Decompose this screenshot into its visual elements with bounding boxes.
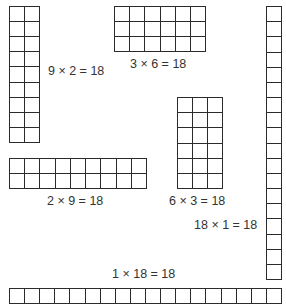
grid-cell xyxy=(145,22,160,37)
grid-cell xyxy=(161,289,176,304)
grid-cell xyxy=(178,113,193,128)
grid-cell xyxy=(176,37,191,52)
grid-cell xyxy=(161,37,176,52)
grid-cell xyxy=(10,83,25,98)
grid-cell xyxy=(115,22,130,37)
grid-cell xyxy=(222,289,237,304)
grid-cell xyxy=(193,98,208,113)
grid-cell xyxy=(55,289,70,304)
grid-cell xyxy=(176,289,191,304)
array-3x6-grid xyxy=(114,6,206,52)
grid-cell xyxy=(56,174,71,189)
grid-cell xyxy=(178,128,193,143)
grid-cell xyxy=(267,128,282,143)
array-1x18-label: 1 × 18 = 18 xyxy=(112,267,175,281)
grid-cell xyxy=(267,53,282,68)
grid-cell xyxy=(25,289,40,304)
array-18x1-grid xyxy=(266,6,282,280)
grid-cell xyxy=(10,159,25,174)
grid-cell xyxy=(25,98,40,113)
grid-cell xyxy=(267,159,282,174)
grid-cell xyxy=(10,128,25,143)
grid-cell xyxy=(178,144,193,159)
grid-cell xyxy=(115,37,130,52)
array-6x3-grid xyxy=(177,97,223,189)
grid-cell xyxy=(252,289,267,304)
grid-cell xyxy=(161,7,176,22)
grid-cell xyxy=(25,174,40,189)
grid-cell xyxy=(267,189,282,204)
grid-cell xyxy=(56,159,71,174)
grid-cell xyxy=(25,128,40,143)
grid-cell xyxy=(25,37,40,52)
grid-cell xyxy=(193,113,208,128)
grid-cell xyxy=(25,22,40,37)
grid-cell xyxy=(267,174,282,189)
grid-cell xyxy=(10,37,25,52)
array-9x2-label: 9 × 2 = 18 xyxy=(48,64,104,78)
grid-cell xyxy=(145,7,160,22)
grid-cell xyxy=(208,128,223,143)
array-2x9-label: 2 × 9 = 18 xyxy=(47,194,103,208)
array-1x18-grid xyxy=(9,288,282,304)
grid-cell xyxy=(208,113,223,128)
grid-cell xyxy=(267,219,282,234)
grid-cell xyxy=(40,174,55,189)
grid-cell xyxy=(191,22,206,37)
grid-cell xyxy=(193,144,208,159)
grid-cell xyxy=(208,144,223,159)
grid-cell xyxy=(10,289,25,304)
grid-cell xyxy=(117,159,132,174)
grid-cell xyxy=(176,7,191,22)
grid-cell xyxy=(206,289,221,304)
grid-cell xyxy=(267,289,282,304)
grid-cell xyxy=(267,204,282,219)
grid-cell xyxy=(101,159,116,174)
grid-cell xyxy=(193,128,208,143)
grid-cell xyxy=(132,174,147,189)
grid-cell xyxy=(25,159,40,174)
grid-cell xyxy=(10,174,25,189)
grid-cell xyxy=(267,83,282,98)
grid-cell xyxy=(178,159,193,174)
grid-cell xyxy=(130,7,145,22)
array-6x3-label: 6 × 3 = 18 xyxy=(169,194,225,208)
grid-cell xyxy=(191,37,206,52)
grid-cell xyxy=(130,37,145,52)
array-9x2-grid xyxy=(9,6,40,143)
grid-cell xyxy=(86,174,101,189)
grid-cell xyxy=(86,159,101,174)
grid-cell xyxy=(193,159,208,174)
grid-cell xyxy=(115,7,130,22)
grid-cell xyxy=(25,67,40,82)
grid-cell xyxy=(10,67,25,82)
grid-cell xyxy=(267,22,282,37)
grid-cell xyxy=(178,174,193,189)
grid-cell xyxy=(25,7,40,22)
grid-cell xyxy=(40,159,55,174)
grid-cell xyxy=(71,159,86,174)
grid-cell xyxy=(208,174,223,189)
grid-cell xyxy=(267,98,282,113)
grid-cell xyxy=(208,98,223,113)
grid-cell xyxy=(178,98,193,113)
array-3x6-label: 3 × 6 = 18 xyxy=(130,57,186,71)
grid-cell xyxy=(10,22,25,37)
grid-cell xyxy=(267,37,282,52)
array-18x1-label: 18 × 1 = 18 xyxy=(194,218,257,232)
grid-cell xyxy=(237,289,252,304)
grid-cell xyxy=(86,289,101,304)
grid-cell xyxy=(71,174,86,189)
grid-cell xyxy=(70,289,85,304)
grid-cell xyxy=(101,174,116,189)
grid-cell xyxy=(146,289,161,304)
grid-cell xyxy=(161,22,176,37)
grid-cell xyxy=(117,174,132,189)
grid-cell xyxy=(10,98,25,113)
grid-cell xyxy=(267,68,282,83)
grid-cell xyxy=(131,289,146,304)
grid-cell xyxy=(40,289,55,304)
grid-cell xyxy=(208,159,223,174)
grid-cell xyxy=(267,250,282,265)
grid-cell xyxy=(267,144,282,159)
